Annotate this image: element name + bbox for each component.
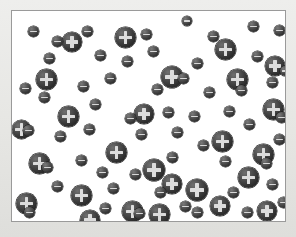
minus-icon (250, 26, 257, 28)
positive-ion (215, 39, 236, 60)
minus-icon (276, 139, 283, 141)
minus-icon (276, 30, 283, 32)
negative-particle (105, 73, 116, 84)
minus-icon (132, 174, 139, 176)
plus-icon (218, 200, 222, 213)
plus-icon (265, 205, 269, 218)
plus-icon (170, 70, 174, 84)
minus-icon (254, 56, 261, 58)
positive-ion (71, 185, 92, 206)
minus-icon (200, 145, 207, 147)
minus-icon (124, 61, 131, 63)
negative-particle (100, 203, 111, 214)
negative-particle (208, 31, 219, 42)
minus-icon (80, 86, 87, 88)
positive-ion (257, 201, 277, 221)
negative-particle (163, 107, 174, 118)
positive-ion (210, 196, 230, 216)
plus-icon (152, 163, 156, 177)
minus-icon (269, 184, 276, 186)
minus-icon (222, 161, 229, 163)
minus-icon (230, 192, 237, 194)
figure-root: Randomly distributed charged particles: … (0, 0, 296, 237)
negative-particle (204, 87, 215, 98)
particle-layer (12, 11, 285, 221)
plus-icon (45, 73, 49, 86)
negative-particle (192, 58, 203, 69)
negative-particle (182, 16, 192, 26)
positive-ion (62, 32, 82, 52)
minus-icon (97, 55, 104, 57)
negative-particle (78, 81, 89, 92)
minus-icon (150, 51, 157, 53)
minus-icon (184, 20, 190, 22)
negative-particle (220, 156, 231, 167)
minus-icon (143, 34, 150, 36)
minus-icon (127, 118, 134, 120)
minus-icon (138, 134, 145, 136)
plus-icon (70, 36, 74, 49)
positive-ion (134, 104, 154, 124)
negative-particle (244, 119, 255, 130)
negative-particle (136, 129, 147, 140)
negative-particle (267, 77, 278, 88)
minus-icon (246, 124, 253, 126)
minus-icon (54, 186, 61, 188)
minus-icon (154, 89, 161, 91)
plus-icon (142, 108, 146, 121)
plus-icon (236, 73, 240, 86)
positive-ion (36, 69, 57, 90)
minus-icon (107, 78, 114, 80)
plus-icon (158, 208, 162, 221)
minus-icon (194, 212, 201, 214)
negative-particle (276, 112, 286, 123)
negative-particle (148, 46, 159, 57)
negative-particle (172, 127, 183, 138)
plus-icon (273, 60, 277, 73)
positive-ion (106, 142, 127, 163)
negative-particle (44, 53, 55, 64)
minus-icon (26, 212, 33, 214)
positive-ion (143, 159, 165, 181)
plus-icon (67, 110, 71, 123)
positive-ion (80, 210, 100, 222)
negative-particle (274, 25, 285, 36)
positive-ion (212, 131, 233, 152)
minus-icon (54, 41, 61, 43)
plus-icon (247, 171, 251, 184)
particle-panel (11, 10, 286, 222)
positive-ion (58, 106, 79, 127)
negative-particle (189, 111, 200, 122)
negative-particle (20, 83, 31, 94)
minus-icon (46, 58, 53, 60)
negative-particle (178, 73, 189, 84)
negative-particle (23, 125, 34, 136)
minus-icon (180, 78, 187, 80)
minus-icon (182, 206, 189, 208)
negative-particle (108, 183, 119, 194)
negative-particle (267, 179, 278, 190)
plus-icon (124, 31, 128, 44)
negative-particle (130, 169, 141, 180)
negative-particle (155, 187, 166, 198)
plus-icon (115, 146, 119, 159)
positive-ion (115, 27, 136, 48)
minus-icon (157, 192, 164, 194)
negative-particle (141, 29, 152, 40)
minus-icon (194, 63, 201, 65)
negative-particle (76, 155, 87, 166)
minus-icon (280, 202, 286, 204)
minus-icon (226, 111, 233, 113)
negative-particle (39, 92, 50, 103)
plus-icon (38, 157, 42, 170)
minus-icon (282, 70, 286, 72)
negative-particle (52, 36, 63, 47)
minus-icon (86, 129, 93, 131)
positive-ion (186, 179, 208, 201)
plus-icon (224, 43, 228, 56)
negative-particle (192, 207, 203, 218)
minus-icon (136, 213, 143, 215)
plus-icon (170, 178, 174, 191)
minus-icon (191, 116, 198, 118)
minus-icon (99, 172, 106, 174)
